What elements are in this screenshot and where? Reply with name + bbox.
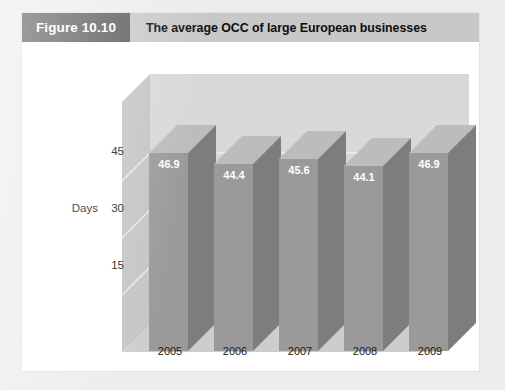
- x-tick-2007: 2007: [288, 345, 312, 357]
- x-axis: 2005 2006 2007 2008 2009: [22, 345, 479, 365]
- chart-left-wall: [122, 74, 150, 352]
- figure-header: Figure 10.10 The average OCC of large Eu…: [22, 13, 479, 42]
- page-background: Figure 10.10 The average OCC of large Eu…: [0, 0, 505, 390]
- x-tick-2008: 2008: [353, 345, 377, 357]
- bar-value-2009: 46.9: [418, 158, 439, 170]
- bar-2006-front: [214, 164, 253, 351]
- y-axis: 45 30 Days 15: [52, 42, 124, 371]
- figure-number-badge: Figure 10.10: [22, 13, 130, 42]
- bar-2008-front: [344, 166, 383, 351]
- figure-card: Figure 10.10 The average OCC of large Eu…: [22, 13, 479, 371]
- bar-value-2007: 45.6: [288, 164, 309, 176]
- y-tick-15: 15: [111, 259, 124, 271]
- bar-value-2006: 44.4: [223, 169, 245, 181]
- y-axis-title: Days: [72, 202, 98, 214]
- x-tick-2009: 2009: [418, 345, 442, 357]
- figure-title: The average OCC of large European busine…: [130, 13, 479, 42]
- chart-plot-area: 46.9 44.4 45.6 44.1 46.9 45 30 Days 15 2…: [22, 42, 479, 371]
- bar-2005-side: [188, 125, 216, 351]
- bar-value-2008: 44.1: [353, 171, 374, 183]
- x-tick-2006: 2006: [223, 345, 247, 357]
- bar-value-2005: 46.9: [158, 158, 179, 170]
- bar-2006-side: [253, 136, 281, 351]
- bar-2005-front: [149, 153, 188, 351]
- bar-2009-front: [409, 153, 448, 351]
- x-tick-2005: 2005: [158, 345, 182, 357]
- bar-2007-front: [279, 159, 318, 351]
- bar-2009-side: [448, 125, 476, 351]
- bar-2007-side: [318, 131, 346, 351]
- bar-2008[interactable]: [344, 138, 411, 351]
- y-tick-45: 45: [111, 145, 124, 157]
- y-tick-30: 30: [111, 202, 124, 214]
- bar-2008-side: [383, 138, 411, 351]
